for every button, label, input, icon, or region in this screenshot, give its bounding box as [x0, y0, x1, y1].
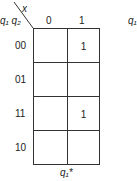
column-header-1: 1: [79, 15, 85, 26]
karnaugh-map-grid: 1 1: [33, 28, 100, 165]
row-header-10: 10: [15, 142, 26, 153]
cell-10-0: [34, 131, 67, 165]
cell-00-1: 1: [67, 29, 100, 63]
cell-11-1: 1: [67, 97, 100, 131]
row-header-11: 11: [15, 108, 25, 119]
column-header-0: 0: [46, 15, 52, 26]
cell-00-0: [34, 29, 67, 63]
cell-01-0: [34, 63, 67, 97]
row-variables-label: q₁ q₂: [0, 15, 21, 26]
cell-10-1: [67, 131, 100, 165]
column-variable-label: x: [22, 3, 27, 14]
row-header-01: 01: [15, 74, 26, 85]
row-header-00: 00: [15, 40, 26, 51]
cell-01-1: [67, 63, 100, 97]
output-label: q₁*: [60, 167, 73, 178]
next-map-partial-label: q₁: [128, 15, 137, 26]
cell-11-0: [34, 97, 67, 131]
